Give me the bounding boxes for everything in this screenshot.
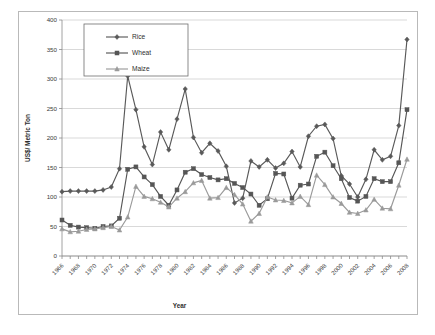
data-point-marker: [396, 183, 401, 187]
data-point-marker: [183, 87, 187, 92]
y-axis-tick-label: 150: [47, 164, 58, 171]
x-axis-tick-label: 1986: [215, 262, 229, 276]
x-axis-tick-label: 2002: [347, 262, 361, 276]
y-axis-title: US$/ Metric Ton: [24, 114, 32, 162]
data-point-marker: [60, 189, 64, 194]
data-point-marker: [274, 171, 278, 175]
x-axis-tick-label: 1978: [150, 262, 164, 276]
data-point-marker: [224, 177, 228, 181]
data-point-marker: [93, 189, 97, 194]
data-point-marker: [126, 167, 130, 171]
data-point-marker: [68, 189, 72, 194]
series-line-wheat: [62, 110, 407, 229]
data-point-marker: [199, 178, 204, 182]
x-axis-tick-label: 1966: [51, 262, 65, 276]
legend-label-maize: Maize: [132, 65, 150, 72]
y-axis-tick-label: 0: [54, 252, 58, 259]
x-axis-title: Year: [173, 302, 187, 309]
y-axis-tick-label: 300: [47, 75, 58, 82]
data-point-marker: [397, 123, 401, 128]
data-point-marker: [331, 164, 335, 168]
x-axis-tick-label: 1972: [100, 262, 114, 276]
x-axis-tick-label: 1968: [67, 262, 81, 276]
data-point-marker: [356, 199, 360, 203]
chart-plot-area: 0501001502002503003504001966196819701972…: [19, 12, 417, 314]
data-point-marker: [232, 200, 236, 205]
data-point-marker: [364, 177, 368, 182]
data-point-marker: [60, 226, 65, 230]
data-point-marker: [142, 175, 146, 179]
data-point-marker: [224, 185, 229, 189]
x-axis-tick-label: 1970: [84, 262, 98, 276]
data-point-marker: [380, 180, 384, 184]
data-point-marker: [405, 157, 410, 161]
data-point-marker: [257, 203, 261, 207]
data-point-marker: [306, 182, 310, 186]
data-point-marker: [315, 154, 319, 158]
data-point-marker: [142, 144, 146, 149]
data-point-marker: [60, 218, 64, 222]
x-axis-tick-label: 1988: [232, 262, 246, 276]
data-point-marker: [241, 196, 245, 201]
x-axis-tick-label: 1976: [133, 262, 147, 276]
data-point-marker: [298, 183, 302, 187]
data-point-marker: [76, 189, 80, 194]
series-wheat: [60, 108, 409, 231]
y-axis-tick-label: 350: [47, 46, 58, 53]
x-axis-tick-label: 2000: [330, 262, 344, 276]
data-point-marker: [233, 181, 237, 185]
x-axis-tick-label: 1974: [117, 262, 131, 276]
data-point-marker: [109, 184, 113, 189]
data-point-marker: [208, 176, 212, 180]
x-axis-tick-label: 2006: [380, 262, 394, 276]
data-point-marker: [118, 216, 122, 220]
data-point-marker: [134, 165, 138, 169]
data-point-marker: [158, 130, 162, 135]
data-point-marker: [405, 37, 409, 42]
legend-label-rice: Rice: [132, 33, 146, 40]
data-point-marker: [159, 194, 163, 198]
chart-figure: 0501001502002503003504001966196819701972…: [18, 11, 418, 315]
data-point-marker: [175, 188, 179, 192]
data-point-marker: [241, 186, 245, 190]
legend-label-wheat: Wheat: [132, 49, 151, 56]
x-axis-tick-label: 1994: [281, 262, 295, 276]
data-point-marker: [405, 108, 409, 112]
x-axis-tick-label: 2004: [363, 262, 377, 276]
data-point-marker: [364, 194, 368, 198]
data-point-marker: [134, 184, 139, 188]
data-point-marker: [117, 166, 121, 171]
data-point-marker: [125, 215, 130, 219]
x-axis-tick-label: 1982: [182, 262, 196, 276]
data-point-marker: [150, 162, 154, 167]
data-point-marker: [388, 154, 392, 159]
data-point-marker: [101, 187, 105, 192]
price-trend-line-chart: 0501001502002503003504001966196819701972…: [19, 12, 417, 314]
data-point-marker: [134, 107, 138, 112]
data-point-marker: [372, 197, 377, 201]
data-point-marker: [183, 170, 187, 174]
data-point-marker: [389, 180, 393, 184]
x-axis-tick-label: 1984: [199, 262, 213, 276]
data-point-marker: [167, 147, 171, 152]
data-point-marker: [115, 51, 119, 55]
y-axis-tick-label: 50: [50, 223, 57, 230]
data-point-marker: [348, 196, 352, 200]
data-point-marker: [150, 183, 154, 187]
data-point-marker: [84, 189, 88, 194]
data-point-marker: [323, 150, 327, 154]
data-point-marker: [290, 196, 294, 200]
data-point-marker: [191, 167, 195, 171]
data-point-marker: [200, 173, 204, 177]
x-axis-tick-label: 1980: [166, 262, 180, 276]
data-point-marker: [339, 177, 343, 181]
data-point-marker: [298, 194, 303, 198]
data-point-marker: [397, 161, 401, 165]
data-point-marker: [282, 172, 286, 176]
data-point-marker: [257, 211, 262, 215]
y-axis-tick-label: 100: [47, 193, 58, 200]
y-axis-tick-label: 400: [47, 16, 58, 23]
data-point-marker: [175, 117, 179, 122]
chart-legend: RiceWheatMaize: [84, 24, 188, 76]
x-axis-tick-label: 1992: [265, 262, 279, 276]
